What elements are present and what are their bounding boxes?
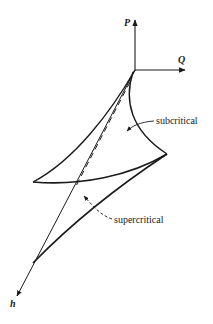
hidden-dashed-edge bbox=[76, 82, 130, 186]
right-fold-edge bbox=[129, 72, 167, 154]
supercritical-pointer bbox=[84, 196, 112, 219]
left-fold-edge bbox=[33, 70, 135, 182]
cusp-diagram: subcritical supercritical P Q h bbox=[0, 0, 213, 324]
p-axis-label: P bbox=[124, 17, 131, 28]
subcritical-label: subcritical bbox=[156, 115, 198, 126]
h-axis-label: h bbox=[10, 298, 16, 309]
supercritical-label: supercritical bbox=[114, 214, 164, 225]
supercritical-edge bbox=[33, 154, 167, 263]
q-axis-label: Q bbox=[178, 54, 185, 65]
